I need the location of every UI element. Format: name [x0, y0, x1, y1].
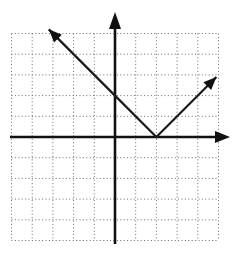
y-axis-arrow-icon [109, 12, 121, 29]
coordinate-graph [0, 0, 233, 259]
x-axis-arrow-icon [215, 131, 230, 143]
axes [10, 12, 230, 244]
function-line [49, 29, 217, 137]
plot-series [49, 29, 217, 137]
